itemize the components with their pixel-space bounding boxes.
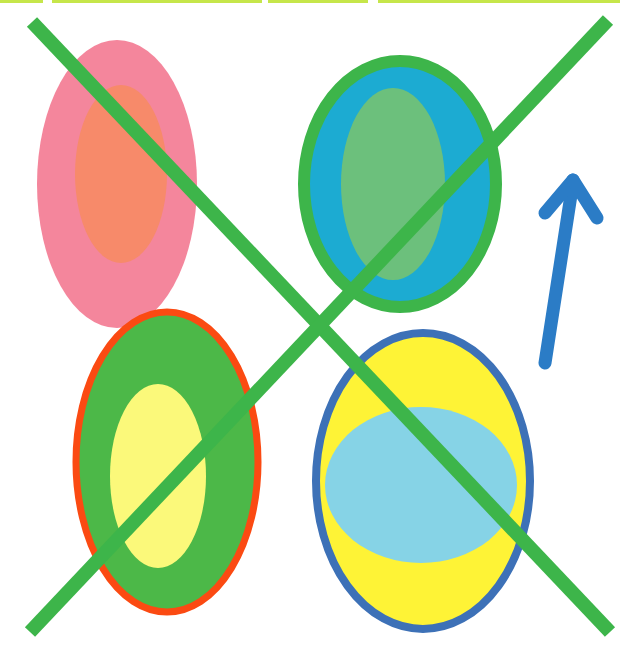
diagram-canvas: Four colored ovals crossed out by a larg… — [0, 0, 620, 653]
top-bar-segment — [378, 0, 620, 3]
top-bar — [0, 0, 620, 3]
diagram-svg — [0, 0, 620, 653]
top-bar-segment — [52, 0, 262, 3]
top-bar-segment — [0, 0, 43, 3]
up-arrow-icon — [545, 180, 597, 363]
top-bar-segment — [268, 0, 368, 3]
